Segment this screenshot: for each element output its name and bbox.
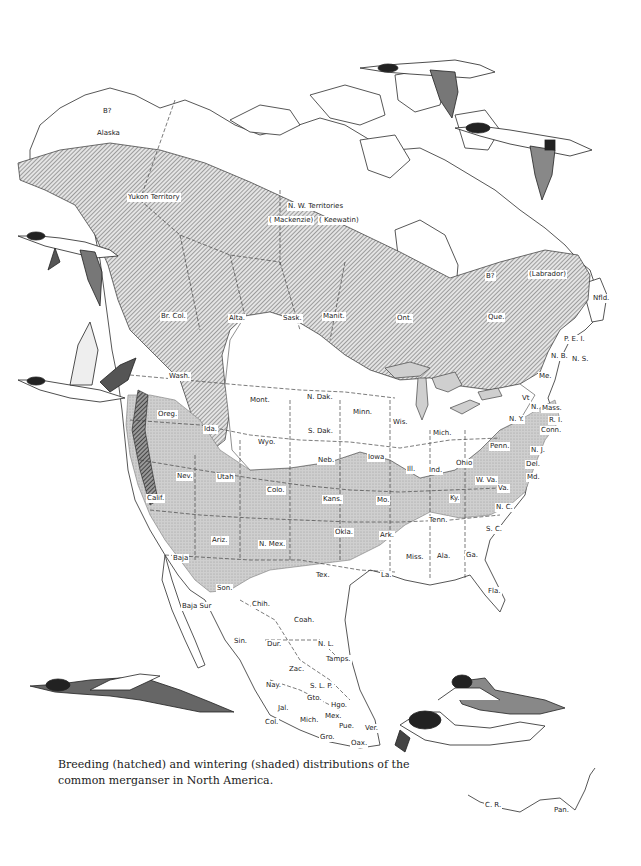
region-label-hudson_q: B?	[485, 272, 496, 281]
region-label-nc: N. C.	[495, 503, 514, 512]
region-label-yukon: Yukon Territory	[127, 193, 181, 202]
region-label-nl: N. L.	[317, 640, 335, 649]
region-label-kans: Kans.	[322, 495, 343, 504]
region-label-conn: Conn.	[540, 426, 562, 435]
region-label-alta: Alta.	[228, 314, 246, 323]
region-label-baja: Baja	[172, 554, 189, 563]
region-label-minn: Minn.	[352, 408, 373, 417]
region-label-manit: Manit.	[322, 312, 346, 321]
merganser-flying-bottom-left	[30, 674, 234, 712]
region-label-coah: Coah.	[293, 616, 315, 625]
region-label-wis: Wis.	[392, 418, 409, 427]
region-label-que: Que.	[487, 313, 505, 322]
region-label-nwt: N. W. Territories	[287, 202, 344, 211]
region-label-ida: Ida.	[203, 425, 218, 434]
region-label-pei: P. E. I.	[563, 335, 586, 344]
region-label-pue: Pue.	[338, 722, 355, 731]
region-label-ns: N. S.	[571, 355, 589, 364]
region-label-nb: N. B.	[550, 352, 569, 361]
region-label-ver: Ver.	[364, 724, 379, 733]
region-label-colo: Colo.	[266, 486, 286, 495]
region-label-ark: Ark.	[379, 531, 395, 540]
region-label-wva: W. Va.	[475, 476, 498, 485]
region-label-fla: Fla.	[487, 587, 502, 596]
region-label-son: Son.	[216, 584, 233, 593]
region-label-neb: Neb.	[317, 456, 335, 465]
region-label-del: Del.	[525, 460, 541, 469]
region-label-oreg: Oreg.	[157, 410, 178, 419]
region-label-mont: Mont.	[249, 396, 271, 405]
region-label-ala: Ala.	[436, 552, 451, 561]
region-label-sask: Sask.	[282, 314, 303, 323]
region-label-ky: Ky.	[449, 494, 460, 503]
region-label-ny: N. Y.	[508, 415, 525, 424]
region-label-mackenzie: ( Mackenzie)	[268, 216, 314, 225]
region-label-oax: Oax.	[350, 739, 368, 748]
region-label-mich_mx: Mich.	[299, 716, 320, 725]
region-label-me: Me.	[538, 372, 553, 381]
figure-caption: Breeding (hatched) and wintering (shaded…	[58, 757, 418, 789]
region-label-pan: Pan.	[553, 806, 570, 815]
region-label-la: La.	[380, 571, 392, 580]
region-label-tex: Tex.	[315, 571, 331, 580]
region-label-va: Va.	[497, 484, 510, 493]
region-label-nfld: Nfld.	[592, 294, 610, 303]
region-label-ill: Ill.	[406, 465, 416, 474]
region-label-labrador: (Labrador)	[528, 270, 567, 279]
region-label-utah: Utah	[216, 473, 235, 482]
region-label-brcol: Br. Col.	[160, 312, 187, 321]
region-label-chih: Chih.	[251, 600, 271, 609]
region-label-sc: S. C.	[485, 525, 503, 534]
region-label-mex: Mex.	[324, 712, 343, 721]
region-label-ri: R. I.	[548, 416, 563, 425]
region-label-iowa: Iowa	[367, 453, 385, 462]
region-label-cr: C. R.	[484, 801, 502, 810]
region-label-miss: Miss.	[405, 553, 425, 562]
region-label-ndak: N. Dak.	[306, 393, 334, 402]
region-label-bajasur: Baja Sur	[181, 602, 212, 611]
region-label-dur: Dur.	[266, 640, 282, 649]
region-label-ohio: Ohio	[455, 459, 473, 468]
region-label-ont: Ont.	[396, 314, 413, 323]
region-label-nay: Nay.	[265, 681, 282, 690]
region-label-gro: Gro.	[319, 733, 336, 742]
region-label-ind: Ind.	[428, 466, 443, 475]
region-label-alaska_q: B?	[102, 107, 113, 116]
region-label-calif: Calif.	[146, 494, 165, 503]
merganser-pair-swimming	[395, 675, 565, 752]
region-label-okla: Okla.	[334, 528, 354, 537]
region-label-sdak: S. Dak.	[307, 427, 334, 436]
region-label-zac: Zac.	[288, 665, 305, 674]
region-label-wash: Wash.	[168, 372, 191, 381]
caption-line-2: common merganser in North America.	[58, 773, 418, 789]
caption-line-1: Breeding (hatched) and wintering (shaded…	[58, 757, 418, 773]
region-label-ariz: Ariz.	[211, 536, 229, 545]
region-label-alaska: Alaska	[96, 129, 121, 138]
region-label-slp: S. L. P.	[309, 682, 334, 691]
region-label-nmex: N. Mex.	[258, 540, 286, 549]
region-label-nh: N.	[530, 403, 539, 412]
region-label-sin: Sin.	[233, 637, 248, 646]
region-label-wyo: Wyo.	[257, 438, 276, 447]
region-label-col: Col.	[264, 718, 279, 727]
region-label-nj: N. J.	[530, 446, 546, 455]
region-label-tamps: Tamps.	[325, 655, 352, 664]
region-label-penn: Penn.	[489, 442, 510, 451]
region-label-jal: Jal.	[277, 704, 290, 713]
region-label-mo: Mo.	[376, 496, 390, 505]
region-label-gto: Gto.	[306, 694, 323, 703]
region-label-hgo: Hgo.	[330, 701, 348, 710]
region-label-ga: Ga.	[465, 551, 479, 560]
region-label-md: Md.	[526, 473, 541, 482]
region-label-tenn: Tenn.	[428, 516, 449, 525]
region-label-mich: Mich.	[432, 429, 453, 438]
region-label-keewatin: ( Keewatin)	[318, 216, 360, 225]
region-label-vt: Vt	[521, 394, 531, 403]
region-label-mass: Mass.	[541, 404, 563, 413]
region-label-nev: Nev.	[176, 472, 193, 481]
